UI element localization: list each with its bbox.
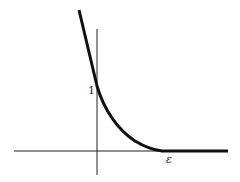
- y-intercept-label: 1: [88, 84, 95, 97]
- decay-curve: [79, 10, 228, 151]
- plot-canvas: 1 ε: [0, 0, 240, 182]
- function-graph: 1 ε: [0, 0, 240, 182]
- epsilon-label: ε: [166, 153, 172, 166]
